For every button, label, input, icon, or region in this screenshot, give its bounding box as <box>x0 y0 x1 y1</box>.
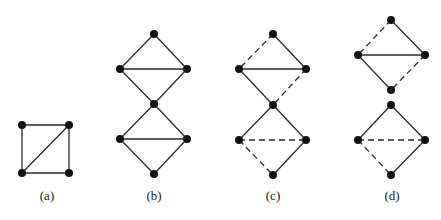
solid-edge <box>154 69 187 104</box>
dashed-edge <box>358 140 391 175</box>
vertex <box>387 16 395 24</box>
vertex <box>269 30 277 38</box>
vertex <box>302 65 310 73</box>
vertex <box>387 171 395 179</box>
solid-edge <box>273 140 306 175</box>
solid-edge <box>22 125 69 173</box>
solid-edge <box>391 20 425 55</box>
vertex <box>387 101 395 109</box>
vertex <box>18 169 26 177</box>
vertex <box>269 101 277 109</box>
dashed-edge <box>358 20 391 55</box>
vertex <box>354 51 362 59</box>
vertex <box>269 171 277 179</box>
panel-b: (b) <box>116 30 191 203</box>
solid-edge <box>120 34 154 69</box>
solid-edge <box>154 104 187 139</box>
vertex <box>235 65 243 73</box>
solid-edge <box>239 69 273 105</box>
dashed-edge <box>239 34 273 69</box>
solid-edge <box>154 34 187 69</box>
panel-label: (a) <box>40 188 54 203</box>
solid-edge <box>239 105 273 140</box>
vertex <box>354 136 362 144</box>
solid-edge <box>273 105 306 140</box>
dashed-edge <box>391 55 425 90</box>
vertex <box>183 135 191 143</box>
panel-a: (a) <box>18 121 73 203</box>
solid-edge <box>391 105 425 140</box>
solid-edge <box>358 105 391 140</box>
solid-edge <box>154 139 187 174</box>
vertex <box>116 65 124 73</box>
vertex <box>302 136 310 144</box>
solid-edge <box>120 104 154 139</box>
vertex <box>65 169 73 177</box>
vertex <box>421 136 429 144</box>
solid-edge <box>391 140 425 175</box>
vertex <box>150 100 158 108</box>
vertex <box>421 51 429 59</box>
vertex <box>183 65 191 73</box>
vertex <box>235 136 243 144</box>
vertex <box>18 121 26 129</box>
graph-figure: (a)(b)(c)(d) <box>0 0 441 220</box>
vertex <box>116 135 124 143</box>
panel-label: (b) <box>146 188 161 203</box>
panel-d: (d) <box>354 16 429 203</box>
dashed-edge <box>273 69 306 105</box>
vertex <box>150 170 158 178</box>
panel-label: (c) <box>266 188 280 203</box>
solid-edge <box>358 55 391 90</box>
panel-c: (c) <box>235 30 310 203</box>
vertex <box>150 30 158 38</box>
dashed-edge <box>239 140 273 175</box>
vertex <box>65 121 73 129</box>
vertex <box>387 86 395 94</box>
solid-edge <box>273 34 306 69</box>
solid-edge <box>120 69 154 104</box>
solid-edge <box>120 139 154 174</box>
panel-label: (d) <box>384 188 399 203</box>
